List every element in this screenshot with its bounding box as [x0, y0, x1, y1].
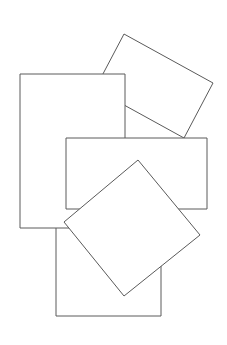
overlapping-shapes-diagram	[0, 0, 227, 345]
